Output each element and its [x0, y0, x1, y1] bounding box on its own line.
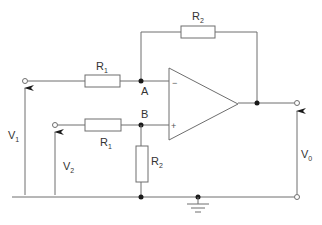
v2-terminal	[53, 123, 58, 128]
resistor-r1-bottom	[85, 119, 121, 131]
ground-node-b-dot	[139, 195, 144, 200]
v1-terminal	[23, 79, 28, 84]
node-a-label: A	[141, 85, 149, 97]
r1-bottom-label: R1	[100, 136, 112, 150]
node-a-dot	[139, 79, 144, 84]
opamp-triangle	[169, 68, 238, 140]
vo-label: V0	[301, 148, 312, 162]
resistor-r2-ground	[136, 146, 148, 182]
v2-label: V2	[63, 160, 74, 174]
resistor-r2-feedback	[181, 26, 215, 38]
v1-label: V1	[8, 129, 19, 143]
r2-feedback-label: R2	[192, 10, 204, 24]
r1-top-label: R1	[96, 60, 108, 74]
ground-icon	[187, 197, 209, 212]
r2-ground-label: R2	[151, 155, 163, 169]
circuit-diagram: R1 R2 A − + R1 B R2 V1 V2 V0	[0, 0, 322, 225]
opamp-plus-sign: +	[171, 121, 176, 131]
vo-terminal-top	[295, 101, 300, 106]
resistor-r1-top	[85, 75, 120, 87]
opamp-minus-sign: −	[172, 78, 177, 88]
vo-terminal-bottom	[295, 195, 300, 200]
node-b-label: B	[141, 108, 148, 120]
output-node-dot	[255, 101, 260, 106]
